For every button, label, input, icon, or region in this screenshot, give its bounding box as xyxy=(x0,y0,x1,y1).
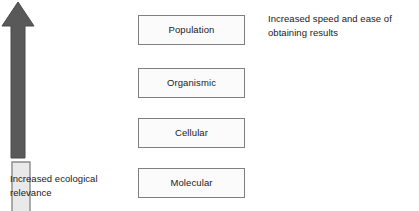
level-box-molecular[interactable]: Molecular xyxy=(138,168,245,198)
level-box-cellular[interactable]: Cellular xyxy=(138,118,245,148)
level-label: Molecular xyxy=(170,178,212,188)
caption-right-line-1: Increased speed and ease of xyxy=(268,12,418,26)
level-label: Organismic xyxy=(167,78,216,88)
level-label: Cellular xyxy=(175,128,208,138)
caption-right-line-2: obtaining results xyxy=(268,26,418,40)
up-arrow xyxy=(0,0,36,160)
level-box-organismic[interactable]: Organismic xyxy=(138,68,245,98)
caption-left-line-1: Increased ecological xyxy=(10,172,130,186)
level-box-population[interactable]: Population xyxy=(138,15,245,45)
up-arrow-icon xyxy=(0,0,36,160)
diagram-canvas: Population Organismic Cellular Molecular… xyxy=(0,0,419,211)
level-label: Population xyxy=(169,25,215,35)
caption-ecological-relevance: Increased ecological relevance xyxy=(10,172,130,199)
caption-speed-and-ease: Increased speed and ease of obtaining re… xyxy=(268,12,418,39)
caption-left-line-2: relevance xyxy=(10,186,130,200)
